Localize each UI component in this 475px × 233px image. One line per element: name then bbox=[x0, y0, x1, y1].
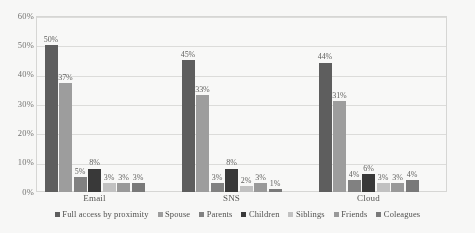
legend-label: Full access by proximity bbox=[62, 210, 148, 219]
bar[interactable] bbox=[240, 186, 253, 192]
bar-value-label: 37% bbox=[52, 74, 80, 82]
bar-value-label: 3% bbox=[124, 174, 152, 182]
bar[interactable] bbox=[182, 60, 195, 192]
bar[interactable] bbox=[269, 189, 282, 192]
bar-value-label: 33% bbox=[189, 86, 217, 94]
legend-item[interactable]: Siblings bbox=[288, 210, 324, 219]
legend: Full access by proximitySpouseParentsChi… bbox=[0, 210, 475, 219]
bar-value-label: 45% bbox=[174, 51, 202, 59]
bar-value-label: 4% bbox=[398, 171, 426, 179]
bar[interactable] bbox=[348, 180, 361, 192]
bar[interactable] bbox=[211, 183, 224, 192]
y-axis-tick-label: 40% bbox=[2, 70, 34, 79]
bar[interactable] bbox=[117, 183, 130, 192]
legend-swatch-icon bbox=[158, 212, 163, 217]
bar-group: 44%31%4%6%3%3%4% bbox=[319, 16, 419, 192]
legend-label: Children bbox=[249, 210, 280, 219]
x-axis-category-label: Cloud bbox=[299, 194, 439, 203]
y-axis-tick-label: 60% bbox=[2, 12, 34, 21]
legend-label: Friends bbox=[341, 210, 367, 219]
legend-label: Parents bbox=[207, 210, 233, 219]
bar[interactable] bbox=[103, 183, 116, 192]
bar-value-label: 8% bbox=[218, 159, 246, 167]
bar-value-label: 31% bbox=[326, 92, 354, 100]
legend-item[interactable]: Friends bbox=[334, 210, 368, 219]
y-axis-tick-label: 10% bbox=[2, 158, 34, 167]
bar[interactable] bbox=[391, 183, 404, 192]
bar-value-label: 44% bbox=[311, 53, 339, 61]
bar-chart: 0%10%20%30%40%50%60% 50%37%5%8%3%3%3%45%… bbox=[0, 0, 475, 233]
legend-item[interactable]: Coleagues bbox=[376, 210, 420, 219]
bar-group: 50%37%5%8%3%3%3% bbox=[45, 16, 145, 192]
legend-label: Spouse bbox=[165, 210, 190, 219]
legend-swatch-icon bbox=[55, 212, 60, 217]
bars-layer: 50%37%5%8%3%3%3%45%33%3%8%2%3%1%44%31%4%… bbox=[36, 16, 447, 192]
legend-swatch-icon bbox=[376, 212, 381, 217]
legend-item[interactable]: Spouse bbox=[158, 210, 191, 219]
y-axis-tick-label: 20% bbox=[2, 129, 34, 138]
x-axis-category-label: SNS bbox=[162, 194, 302, 203]
legend-swatch-icon bbox=[288, 212, 293, 217]
bar[interactable] bbox=[45, 45, 58, 192]
x-axis-category-label: Email bbox=[25, 194, 165, 203]
bar-group: 45%33%3%8%2%3%1% bbox=[182, 16, 282, 192]
y-axis-tick-label: 50% bbox=[2, 41, 34, 50]
legend-swatch-icon bbox=[199, 212, 204, 217]
bar[interactable] bbox=[319, 63, 332, 192]
legend-swatch-icon bbox=[334, 212, 339, 217]
bar-value-label: 50% bbox=[37, 36, 65, 44]
bar[interactable] bbox=[132, 183, 145, 192]
bar-value-label: 1% bbox=[261, 180, 289, 188]
legend-label: Coleagues bbox=[384, 210, 420, 219]
bar[interactable] bbox=[377, 183, 390, 192]
bar-value-label: 6% bbox=[355, 165, 383, 173]
bar-value-label: 8% bbox=[81, 159, 109, 167]
bar[interactable] bbox=[74, 177, 87, 192]
x-axis-categories: EmailSNSCloud bbox=[36, 194, 447, 210]
y-axis-tick-label: 30% bbox=[2, 100, 34, 109]
legend-item[interactable]: Full access by proximity bbox=[55, 210, 149, 219]
legend-item[interactable]: Children bbox=[241, 210, 279, 219]
legend-label: Siblings bbox=[296, 210, 325, 219]
legend-swatch-icon bbox=[241, 212, 246, 217]
bar[interactable] bbox=[406, 180, 419, 192]
legend-item[interactable]: Parents bbox=[199, 210, 232, 219]
